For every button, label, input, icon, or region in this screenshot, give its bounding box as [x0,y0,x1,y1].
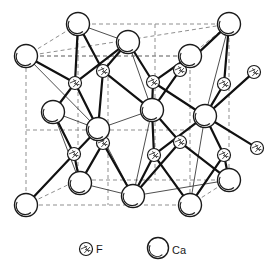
legend-ca-icon [148,238,169,259]
bond-line [33,158,71,198]
bond-line [59,87,72,104]
bond-line [83,33,101,67]
ca-atom [42,101,65,124]
legend-f-label: F [96,243,103,255]
bond-line [214,121,253,145]
bond-line [77,87,93,120]
bond-line [99,76,103,119]
crystal-structure-diagram: F Ca [0,0,271,279]
legend-f-marker-glyph [80,243,93,256]
ca-atom [69,172,92,195]
f-atom [69,77,82,90]
bond-line [209,125,221,151]
ca-atom [15,194,38,217]
bond-line [107,74,144,104]
ca-atom [194,105,217,128]
ca-atom [179,194,202,217]
f-atom [248,66,261,79]
legend-ca-marker-glyph [148,238,169,259]
ca-atom [218,13,241,36]
f-atom [147,76,160,89]
bond-line [159,118,177,139]
ca-atom [67,13,90,36]
bond-line [105,147,128,187]
f-atom [218,78,231,91]
ca-atom [117,31,140,54]
bond-line [152,120,153,150]
bond-line [57,121,71,150]
f-atom [218,149,231,162]
ca-atom [218,169,241,192]
f-atom [148,149,161,162]
f-atom [68,148,81,161]
ca-atom [141,99,164,122]
ca-atom [87,118,110,141]
f-atom [97,65,110,78]
f-atom [174,136,187,149]
legend-ca-label: Ca [172,244,187,256]
ca-atom [179,45,202,68]
bond-line [75,34,77,78]
f-atom [251,142,264,155]
ca-atom [122,185,145,208]
bond-line [85,147,101,174]
bond-line [77,136,91,150]
legend: F Ca [80,238,187,259]
ca-atom [15,45,38,68]
figure-root: F Ca [0,0,271,279]
legend-f-icon [80,243,93,256]
